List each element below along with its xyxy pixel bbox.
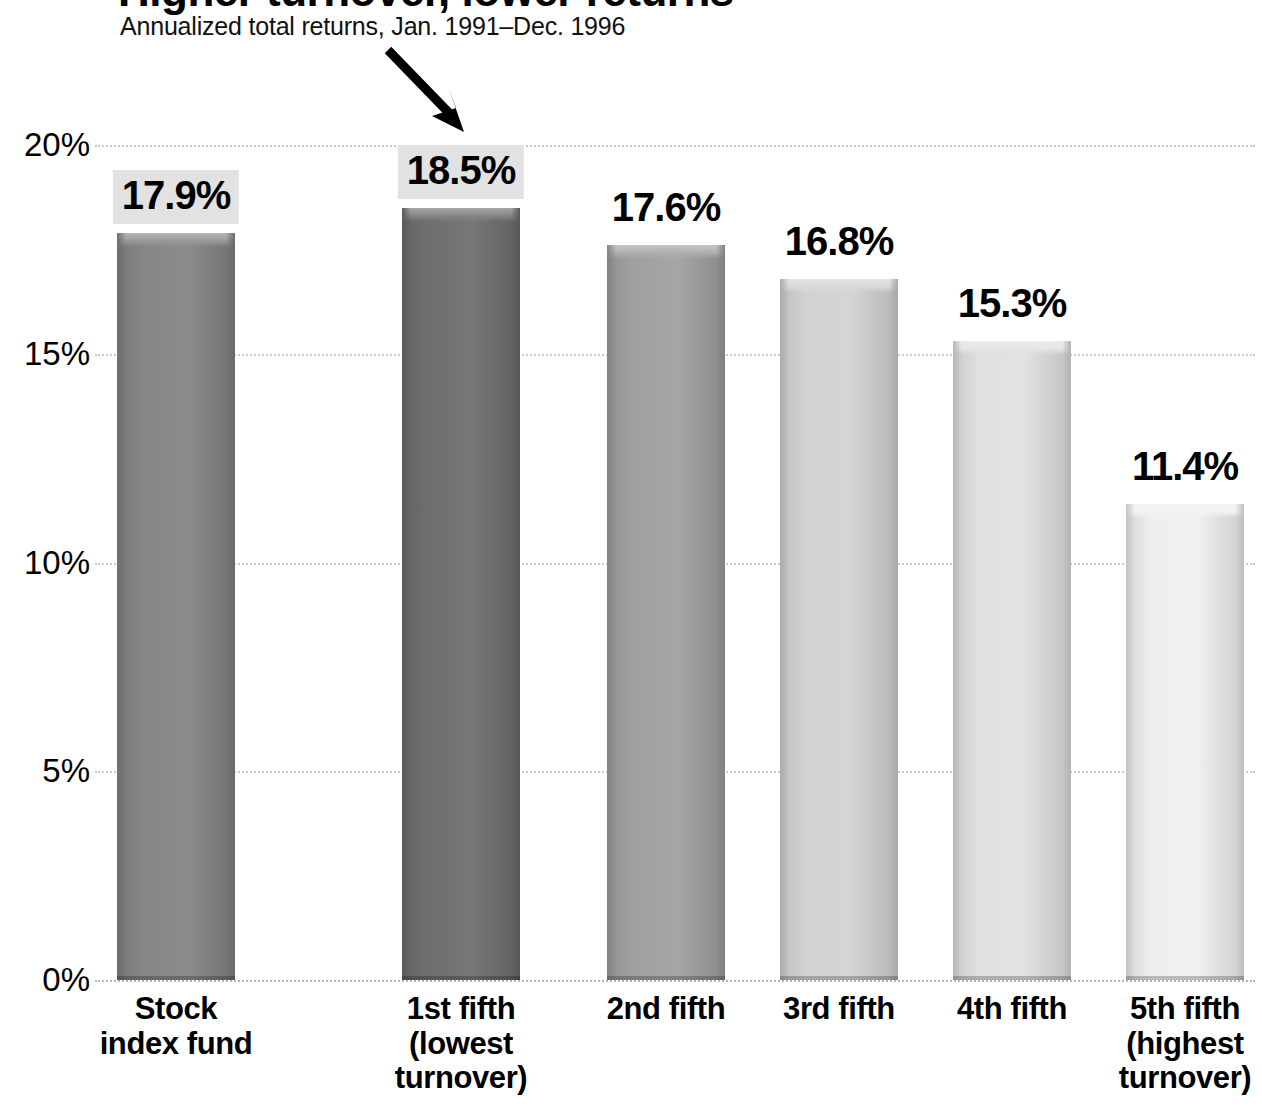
bar-bevel-right: [889, 279, 898, 980]
bar-bevel-left: [953, 341, 962, 980]
bar-body: [607, 245, 725, 980]
gridline-0: [95, 980, 1255, 982]
bar-6[interactable]: [1126, 504, 1244, 980]
bar-5[interactable]: [953, 341, 1071, 980]
bar-chart: Higher turnover, lower returns Annualize…: [0, 0, 1262, 1112]
bar-bevel-bottom: [607, 976, 725, 980]
bar-bevel-top: [402, 208, 520, 222]
bar-bevel-left: [117, 233, 126, 980]
bar-value-label-2: 18.5%: [398, 145, 524, 199]
bar-bevel-left: [607, 245, 616, 980]
x-axis-category-label-2: 1st fifth (lowest turnover): [395, 992, 527, 1096]
bar-bevel-right: [716, 245, 725, 980]
gridline-20: [95, 145, 1255, 147]
x-axis-category-label-6: 5th fifth (highest turnover): [1119, 992, 1251, 1096]
bar-bevel-top: [953, 341, 1071, 355]
bar-body: [402, 208, 520, 980]
x-axis-category-label-3: 2nd fifth: [607, 992, 726, 1027]
bar-value-label-3: 17.6%: [603, 182, 729, 236]
bar-bevel-right: [1235, 504, 1244, 980]
bar-2[interactable]: [402, 208, 520, 980]
bar-value-label-4: 16.8%: [776, 216, 902, 270]
x-axis-category-label-1: Stock index fund: [100, 992, 253, 1061]
bar-value-label-5: 15.3%: [949, 278, 1075, 332]
y-axis-tick-label: 5%: [0, 752, 90, 790]
down-right-arrow-icon: [360, 38, 500, 148]
x-axis-category-label-5: 4th fifth: [957, 992, 1067, 1027]
bar-value-label-6: 11.4%: [1123, 441, 1247, 495]
y-axis-tick-label: 15%: [0, 335, 90, 373]
bar-bevel-bottom: [953, 976, 1071, 980]
bar-value-label-1: 17.9%: [113, 170, 239, 224]
x-axis-category-label-4: 3rd fifth: [783, 992, 895, 1027]
bar-body: [1126, 504, 1244, 980]
bar-body: [953, 341, 1071, 980]
bar-bevel-top: [607, 245, 725, 259]
y-axis-tick-label: 0%: [0, 961, 90, 999]
chart-subtitle: Annualized total returns, Jan. 1991–Dec.…: [120, 12, 625, 41]
bar-bevel-left: [1126, 504, 1135, 980]
bar-bevel-bottom: [1126, 976, 1244, 980]
bar-4[interactable]: [780, 279, 898, 980]
bar-bevel-left: [780, 279, 789, 980]
bar-1[interactable]: [117, 233, 235, 980]
bar-bevel-top: [1126, 504, 1244, 518]
bar-bevel-bottom: [780, 976, 898, 980]
bar-3[interactable]: [607, 245, 725, 980]
bar-bevel-bottom: [117, 976, 235, 980]
y-axis-tick-label: 20%: [0, 126, 90, 164]
bar-bevel-bottom: [402, 976, 520, 980]
y-axis-tick-label: 10%: [0, 544, 90, 582]
bar-body: [117, 233, 235, 980]
bar-bevel-right: [1062, 341, 1071, 980]
bar-bevel-top: [117, 233, 235, 247]
bar-bevel-left: [402, 208, 411, 980]
bar-bevel-right: [226, 233, 235, 980]
bar-bevel-right: [511, 208, 520, 980]
bar-body: [780, 279, 898, 980]
bar-bevel-top: [780, 279, 898, 293]
